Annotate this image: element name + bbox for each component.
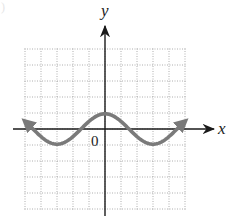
graph: ) x y 0: [0, 0, 233, 218]
y-axis-label: y: [99, 1, 109, 20]
origin-label: 0: [91, 133, 99, 149]
corner-mark: ): [1, 0, 5, 14]
x-axis-label: x: [217, 119, 226, 138]
